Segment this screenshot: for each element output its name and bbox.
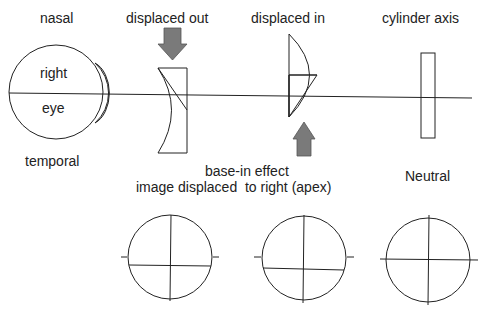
caption-line1: base-in effect [205,164,289,178]
lens-displaced-out [158,68,187,153]
lens-displaced-in [289,34,317,117]
arrow-up-icon [293,122,315,156]
neutral-label: Neutral [405,169,450,183]
eye-top-label: right [40,66,67,80]
reticle-neutral [380,215,478,305]
reticle-displaced-out [121,215,219,301]
eye-bottom-label: eye [42,101,65,115]
cylinder-lens [421,53,435,138]
arrow-down-icon [158,28,187,60]
lens3-title: cylinder axis [382,11,459,25]
nasal-label: nasal [40,11,73,25]
optical-axis-line [9,93,472,98]
lens2-title: displaced in [251,11,325,25]
lens1-title: displaced out [126,11,209,25]
reticle-displaced-in [254,215,354,303]
temporal-label: temporal [25,154,79,168]
caption-line2: image displaced to right (apex) [136,180,331,194]
eye-circle [9,45,103,139]
